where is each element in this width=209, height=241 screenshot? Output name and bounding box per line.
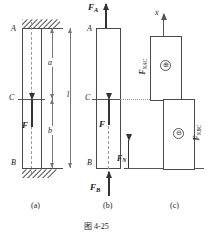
force-label-nac-sub: NAC bbox=[142, 59, 148, 69]
node-label-c-panel-a: C bbox=[9, 94, 14, 102]
sign-badge-negative: ⊖ bbox=[173, 128, 184, 139]
top-fixed-support-hatching bbox=[22, 19, 60, 28]
node-label-a-panel-a: A bbox=[11, 25, 16, 33]
dimension-l-label: l bbox=[66, 90, 70, 99]
force-label-nac: FNAC bbox=[138, 47, 147, 87]
bar-left-edge bbox=[22, 28, 23, 168]
panel-label-c: (c) bbox=[170, 202, 179, 210]
force-label-nbc: FNBC bbox=[192, 113, 201, 153]
panel-label-a: (a) bbox=[31, 202, 40, 210]
bottom-fixed-support-hatching bbox=[22, 169, 60, 178]
node-label-b-panel-b: B bbox=[87, 159, 92, 167]
force-label-nbc-sub: NBC bbox=[196, 125, 202, 135]
axis-label-fn: FN bbox=[117, 155, 127, 164]
reaction-label-fa-sub: A bbox=[94, 6, 98, 13]
panel-b-top-line bbox=[96, 28, 121, 29]
reaction-label-fb-sub: B bbox=[96, 186, 100, 193]
node-label-c-panel-b: C bbox=[85, 94, 90, 102]
figure-caption: 图 4-25 bbox=[84, 223, 109, 231]
bar-right-edge bbox=[41, 28, 42, 168]
panel-b-right-edge bbox=[120, 28, 121, 168]
dimension-b-label: b bbox=[47, 126, 53, 135]
reaction-label-fa: FA bbox=[88, 3, 98, 13]
axis-label-x: x bbox=[155, 9, 159, 17]
figure-canvas: A C B F a l b (a) bbox=[0, 0, 209, 241]
panel-b-left-edge bbox=[96, 28, 97, 168]
node-label-a-panel-b: A bbox=[87, 25, 92, 33]
panel-label-b: (b) bbox=[103, 202, 112, 210]
load-label-f-panel-a: F bbox=[22, 121, 28, 130]
load-label-f-panel-b: F bbox=[99, 120, 105, 129]
top-support-line bbox=[22, 28, 63, 29]
dimension-a-label: a bbox=[47, 58, 53, 67]
axis-label-fn-sub: N bbox=[122, 157, 126, 163]
sign-badge-positive: ⊕ bbox=[160, 60, 171, 71]
node-label-b-panel-a: B bbox=[11, 159, 16, 167]
reaction-label-fb: FB bbox=[90, 183, 100, 193]
